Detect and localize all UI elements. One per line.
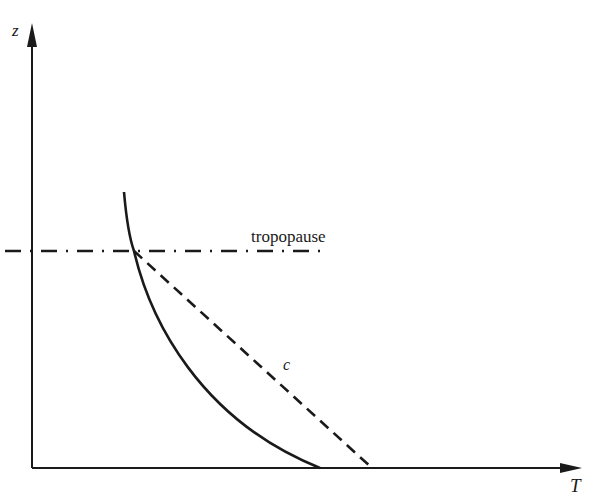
dashed-curve-c — [134, 251, 372, 468]
diagram-svg: z T tropopause c — [0, 0, 607, 502]
t-axis — [32, 463, 582, 473]
temperature-profile-diagram: z T tropopause c — [0, 0, 607, 502]
z-axis-label: z — [11, 21, 19, 40]
tropopause-label: tropopause — [251, 227, 326, 246]
t-axis-arrow-icon — [560, 463, 582, 473]
dashed-curve-label: c — [283, 356, 290, 373]
t-axis-label: T — [570, 475, 582, 496]
z-axis — [27, 23, 37, 468]
z-axis-arrow-icon — [27, 23, 37, 47]
